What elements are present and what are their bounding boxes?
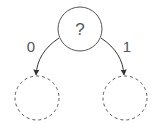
decision-tree-diagram: ? 0 1: [0, 0, 158, 132]
edge-1-arrow: [101, 38, 124, 75]
edge-0-arrow: [36, 38, 59, 75]
root-node-label: ?: [75, 20, 84, 39]
edge-1: 1: [101, 38, 131, 75]
root-node: ?: [58, 7, 102, 51]
edge-0: 0: [27, 38, 59, 75]
edge-0-label: 0: [27, 38, 35, 55]
left-child-node: [15, 76, 59, 120]
right-child-node: [103, 76, 147, 120]
right-child-circle: [103, 76, 147, 120]
left-child-circle: [15, 76, 59, 120]
edge-1-label: 1: [123, 38, 131, 55]
